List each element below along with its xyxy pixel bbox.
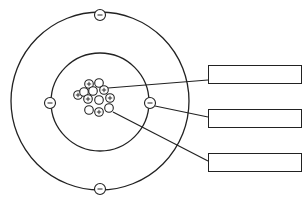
neutron	[95, 96, 104, 105]
neutron	[85, 106, 94, 115]
leader-line-2	[155, 106, 208, 117]
label-box-2[interactable]	[208, 109, 302, 128]
leader-line-1	[108, 80, 208, 88]
atom-diagram	[0, 0, 307, 200]
neutron	[89, 87, 98, 96]
label-box-1[interactable]	[208, 65, 302, 84]
neutron	[105, 104, 114, 113]
leader-line-3	[113, 112, 208, 161]
label-box-3[interactable]	[208, 153, 302, 172]
